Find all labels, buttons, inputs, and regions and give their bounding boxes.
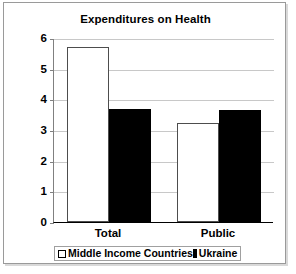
x-axis-category-labels: TotalPublic [53,227,273,247]
category-label-total: Total [95,227,122,239]
y-axis-tickmark [50,223,54,224]
legend-label: Middle Income Countries [68,248,193,259]
chart-title: Expenditures on Health [4,13,287,25]
category-label-public: Public [201,227,236,239]
y-axis-tickmark [50,192,54,193]
bar-public-middle-income-countries [177,123,219,222]
y-axis-tickmark [50,70,54,71]
plot-area [53,39,273,223]
legend-swatch-icon [58,250,66,258]
y-axis-tickmark [50,39,54,40]
bar-total-ukraine [109,109,151,222]
y-axis-tickmark [50,131,54,132]
y-axis-tick-label: 3 [17,125,47,137]
bar-public-ukraine [219,110,261,222]
y-axis-tickmark [50,100,54,101]
y-axis-tick-label: 2 [17,156,47,168]
y-axis-tick-labels: 0123456 [14,39,53,223]
y-axis-tick-label: 1 [17,187,47,199]
legend-item-ukraine[interactable]: Ukraine [193,248,238,259]
y-axis-tick-label: 0 [17,217,47,229]
bar-total-middle-income-countries [67,47,109,222]
chart-legend: Middle Income CountriesUkraine [54,246,241,261]
y-axis-tickmark [50,162,54,163]
legend-label: Ukraine [199,248,238,259]
y-axis-tick-label: 4 [17,95,47,107]
gridline [54,39,274,40]
y-axis-tick-label: 6 [17,33,47,45]
chart-frame: Expenditures on Health 0123456 TotalPubl… [3,2,286,264]
legend-swatch-icon [193,249,197,258]
y-axis-tick-label: 5 [17,64,47,76]
legend-item-middle-income-countries[interactable]: Middle Income Countries [58,248,193,259]
